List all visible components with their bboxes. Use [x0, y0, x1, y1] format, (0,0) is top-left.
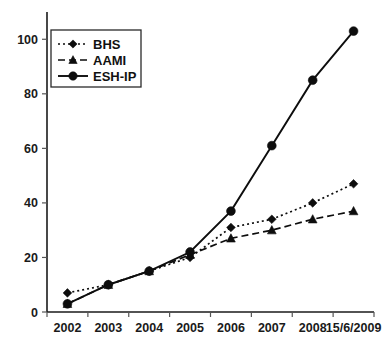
x-tick-label: 2005: [176, 321, 204, 335]
data-point-circle: [186, 248, 195, 257]
series-line: [67, 211, 353, 304]
line-chart: 020406080100 200220032004200520062007200…: [0, 0, 390, 349]
data-point-circle: [308, 76, 317, 85]
data-point-diamond: [268, 215, 277, 224]
series-bhs: [63, 180, 358, 298]
x-tick-labels: 200220032004200520062007200815/6/2009: [54, 321, 382, 335]
x-tick-label: 2008: [299, 321, 327, 335]
series-line: [67, 184, 353, 293]
chart-legend: BHSAAMIESH-IP: [51, 30, 141, 87]
data-point-circle: [227, 207, 236, 216]
data-point-circle: [349, 27, 358, 36]
series-aami: [63, 206, 358, 307]
y-tick-label: 80: [24, 87, 38, 101]
data-point-circle: [104, 280, 113, 289]
x-tick-label: 2002: [54, 321, 82, 335]
data-point-circle: [63, 299, 72, 308]
y-tick-label: 0: [31, 306, 38, 320]
data-point-diamond: [63, 289, 72, 298]
y-tick-label: 60: [24, 142, 38, 156]
x-tick-label: 2006: [217, 321, 245, 335]
y-tick-label: 20: [24, 251, 38, 265]
data-point-circle: [69, 72, 77, 80]
y-tick-labels: 020406080100: [17, 33, 38, 320]
data-point-circle: [145, 267, 154, 276]
x-tick-label: 15/6/2009: [326, 321, 382, 335]
x-tick-label: 2003: [94, 321, 122, 335]
x-tick-label: 2004: [135, 321, 163, 335]
legend-label-aami: AAMI: [93, 53, 126, 68]
legend-label-esh-ip: ESH-IP: [93, 69, 137, 84]
data-point-diamond: [308, 199, 317, 208]
y-tick-label: 100: [17, 33, 38, 47]
data-point-circle: [267, 141, 276, 150]
x-tick-label: 2007: [258, 321, 286, 335]
data-point-triangle: [349, 206, 358, 214]
data-point-diamond: [227, 223, 236, 232]
data-point-diamond: [349, 180, 358, 189]
chart-canvas: 020406080100 200220032004200520062007200…: [0, 0, 390, 349]
y-tick-label: 40: [24, 196, 38, 210]
legend-label-bhs: BHS: [93, 37, 121, 52]
data-point-triangle: [308, 215, 317, 223]
